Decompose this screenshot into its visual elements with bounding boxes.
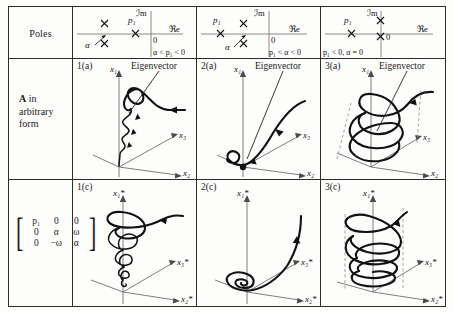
axis-label-x2-1a: x₂ (182, 168, 190, 178)
table-row-arbitrary: A in arbitrary form 1(a) (9, 59, 446, 179)
phase-portrait-3a: x₁ x₂ x₃ (321, 59, 446, 179)
phase-portrait-3c: x₁* x₂* x₃* (321, 180, 446, 307)
real-axis-label-1: ℜe (169, 24, 180, 34)
eigenvector-label-2a: Eigenvector (255, 61, 301, 71)
matrix-a-symbol: A (19, 93, 26, 104)
matrix-cell: −ω (46, 238, 66, 249)
trajectory-cell-3a: 3(a) (321, 59, 446, 179)
eigenvector-label-1a: Eigenvector (131, 61, 177, 71)
matrix-left-bracket: [ (16, 216, 23, 250)
axis-label-x1-2c: x₁* (236, 188, 249, 198)
arbitrary-word-in: in (29, 93, 37, 104)
matrix-cell: 0 (26, 227, 46, 238)
real-axis-label-3: ℜe (417, 24, 428, 34)
imaginary-axis-label-1: ℐm (136, 8, 147, 18)
row-header-arbitrary: A in arbitrary form (9, 59, 73, 179)
pole-mark-p1 (348, 30, 355, 37)
axis-label-x2-3c: x₂* (430, 294, 443, 304)
axis-label-x3-2a: x₃ (302, 130, 310, 140)
axis-label-x3-3a: x₃ (422, 132, 430, 142)
axis-label-x2-2c: x₂* (304, 294, 317, 304)
pole-diagram-cell-2: p₁ α 0 ℐm ℜe p₁ < α < 0 (197, 7, 321, 59)
pole-condition-3: p₁ < 0, α = 0 (323, 48, 363, 57)
pole-mark-alpha-upper (240, 20, 247, 27)
phase-portrait-2a: x₁ x₂ x₃ (197, 59, 321, 179)
axis-label-x2-2a: x₂ (306, 168, 314, 178)
axis-label-x1-3a: x₁ (361, 64, 369, 74)
pole-mark-alpha-lower (101, 40, 108, 47)
axis-label-x1-1c: x₁* (112, 188, 125, 198)
phase-portrait-1c: x₁* x₂* x₃* (73, 180, 197, 307)
trajectory-cell-1c: 1(c) (73, 179, 197, 306)
axis-label-x3-3c: x₃* (424, 257, 437, 267)
pole-plot-2: p₁ α 0 ℐm ℜe p₁ < α < 0 (197, 7, 321, 59)
table-row-diagonal: [ p₁00 0αω 0−ωα ] (9, 179, 446, 306)
pole-diagram-cell-1: α p₁ 0 ℐm ℜe α < p₁ < 0 (73, 7, 197, 59)
pole-label-p1-1: p₁ (127, 15, 136, 25)
matrix-cell: p₁ (26, 216, 46, 227)
pole-origin-3: 0 (386, 32, 390, 42)
axis-label-x1-2a: x₁ (233, 64, 241, 74)
axis-label-x1-1a: x₁ (109, 64, 117, 74)
arbitrary-word-arbitrary: arbitrary (19, 106, 53, 117)
trajectory-cell-2a: 2(a) x₁ (197, 59, 321, 179)
phase-portrait-2c: x₁* x₂* x₃* (197, 180, 321, 307)
pole-mark-p1 (132, 30, 139, 37)
imaginary-axis-label-2: ℐm (254, 8, 265, 18)
eigenvalue-cases-table: Poles α (8, 6, 446, 307)
row-header-matrix: [ p₁00 0αω 0−ωα ] (9, 179, 73, 306)
pole-diagram-cell-3: p₁ 0 ℐm ℜe p₁ < 0, α = 0 (321, 7, 446, 59)
axis-label-x3-1c: x₃* (176, 257, 189, 267)
pole-plot-3: p₁ 0 ℐm ℜe p₁ < 0, α = 0 (321, 7, 446, 59)
pole-mark-alpha-upper (101, 20, 108, 27)
pole-label-p1-2: p₁ (212, 15, 221, 25)
pole-origin-1: 0 (153, 35, 157, 45)
row-header-poles: Poles (9, 7, 73, 59)
pole-mark-p1 (217, 30, 224, 37)
axis-label-x2-1c: x₂* (180, 294, 193, 304)
pole-label-alpha-1: α (85, 40, 90, 50)
pole-mark-imag-upper (377, 17, 384, 24)
axis-label-x3-2c: x₃* (300, 257, 313, 267)
trajectory-cell-2c: 2(c) x₁* x₂* x₃* (197, 179, 321, 306)
pole-label-p1-3: p₁ (343, 15, 352, 25)
matrix-cell: 0 (46, 216, 66, 227)
pole-mark-alpha-lower (240, 40, 247, 47)
poles-label: Poles (9, 27, 72, 38)
trajectory-cell-3c: 3(c) (321, 179, 446, 306)
eigenvector-label-3a: Eigenvector (379, 61, 425, 71)
figure-table-page: Poles α (0, 0, 453, 313)
arbitrary-form-label: A in arbitrary form (19, 93, 53, 131)
imaginary-axis-label-3: ℐm (367, 8, 378, 18)
pole-origin-2: 0 (271, 35, 275, 45)
pole-condition-1: α < p₁ < 0 (153, 48, 185, 57)
axis-label-x1-3c: x₁* (362, 188, 375, 198)
table-row-poles: Poles α (9, 7, 446, 59)
matrix-cell: α (46, 227, 66, 238)
matrix-cell: 0 (26, 238, 46, 249)
pole-plot-1: α p₁ 0 ℐm ℜe α < p₁ < 0 (73, 7, 197, 59)
axis-label-x3-1a: x₃ (178, 130, 186, 140)
pole-label-alpha-2: α (225, 42, 230, 52)
real-axis-label-2: ℜe (289, 24, 300, 34)
phase-portrait-1a: x₁ x₂ x₃ (73, 59, 197, 179)
axis-label-x2-3a: x₂ (430, 168, 438, 178)
trajectory-cell-1a: 1(a) (73, 59, 197, 179)
pole-condition-2: p₁ < α < 0 (269, 48, 301, 57)
arbitrary-word-form: form (19, 118, 38, 129)
